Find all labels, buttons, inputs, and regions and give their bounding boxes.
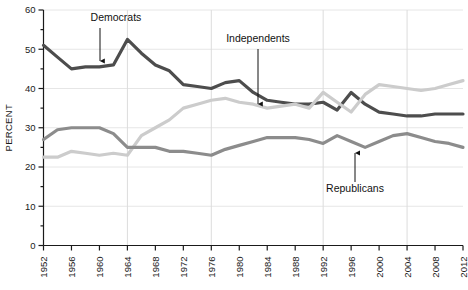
x-tick-label: 1976 bbox=[206, 257, 217, 278]
x-tick-label: 1984 bbox=[262, 257, 273, 278]
x-tick-label: 1964 bbox=[122, 257, 133, 278]
y-tick-label: 40 bbox=[25, 83, 36, 94]
x-axis-tick-labels: 1952195619601964196819721976198019841988… bbox=[38, 257, 468, 278]
y-axis-label: PERCENT bbox=[3, 104, 14, 152]
annotation-label-independents: Independents bbox=[226, 32, 290, 44]
y-axis-tick-labels: 0102030405060 bbox=[25, 4, 36, 251]
x-tick-label: 1968 bbox=[150, 257, 161, 278]
y-axis-title: PERCENT bbox=[3, 104, 14, 152]
y-tick-label: 20 bbox=[25, 161, 36, 172]
y-tick-label: 0 bbox=[30, 240, 35, 251]
x-tick-label: 1972 bbox=[178, 257, 189, 278]
series-line-republicans bbox=[44, 128, 464, 155]
x-tick-label: 1996 bbox=[346, 257, 357, 278]
x-tick-label: 2008 bbox=[430, 257, 441, 278]
x-tick-label: 2000 bbox=[374, 257, 385, 278]
y-tick-label: 50 bbox=[25, 44, 36, 55]
x-tick-label: 1980 bbox=[234, 257, 245, 278]
y-tick-label: 60 bbox=[25, 4, 36, 15]
x-tick-label: 1960 bbox=[94, 257, 105, 278]
party-identification-line-chart: 0102030405060 19521956196019641968197219… bbox=[0, 0, 468, 290]
chart-container: 0102030405060 19521956196019641968197219… bbox=[0, 0, 468, 290]
x-tick-label: 1988 bbox=[290, 257, 301, 278]
y-tick-label: 10 bbox=[25, 201, 36, 212]
gridlines bbox=[44, 10, 464, 246]
y-tick-label: 30 bbox=[25, 122, 36, 133]
annotation-label-republicans: Republicans bbox=[326, 182, 384, 194]
x-tick-label: 1992 bbox=[318, 257, 329, 278]
x-tick-label: 2012 bbox=[458, 257, 468, 278]
x-tick-label: 1952 bbox=[38, 257, 49, 278]
x-tick-label: 2004 bbox=[402, 257, 413, 278]
annotation-label-democrats: Democrats bbox=[91, 11, 142, 23]
x-tick-label: 1956 bbox=[66, 257, 77, 278]
data-series bbox=[44, 39, 464, 157]
